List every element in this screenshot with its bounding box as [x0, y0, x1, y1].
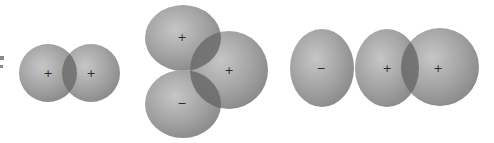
phase-sign-plus: +: [433, 63, 442, 74]
phase-sign-plus: +: [224, 65, 233, 76]
sphere-group-triad: [145, 5, 268, 138]
orbital-diagram: + + + − + − + +: [0, 0, 494, 143]
phase-sign-plus: +: [177, 32, 186, 43]
phase-sign-plus: +: [382, 63, 391, 74]
phase-sign-minus: −: [177, 98, 186, 109]
phase-sign-plus: +: [86, 68, 95, 79]
cropped-text-fragment: [0, 65, 3, 68]
phase-sign-plus: +: [43, 68, 52, 79]
phase-sign-minus: −: [316, 63, 325, 74]
sphere-group-pair: [19, 44, 120, 102]
cropped-text-fragment: [0, 56, 4, 60]
orbital-diagram-svg: [0, 0, 494, 143]
